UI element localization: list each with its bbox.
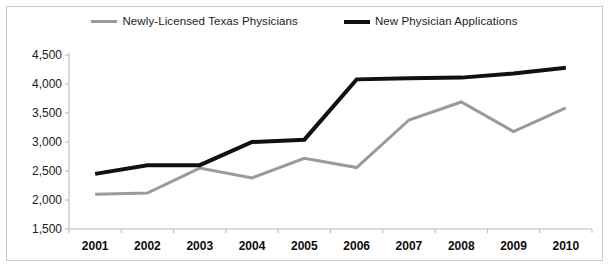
plot-area: 4,5004,0003,5003,0002,5002,0001,500 2001… <box>7 7 602 260</box>
x-axis-tick-label: 2007 <box>396 240 423 252</box>
x-axis-tick-label: 2005 <box>291 240 318 252</box>
x-axis-tick-label: 2006 <box>343 240 370 252</box>
x-axis-tick-label: 2010 <box>552 240 579 252</box>
x-axis-tick-label: 2003 <box>186 240 213 252</box>
x-axis-tick-labels: 2001200220032004200520062007200820092010 <box>7 7 602 260</box>
x-axis-tick-label: 2001 <box>82 240 109 252</box>
x-axis-tick-label: 2004 <box>239 240 266 252</box>
x-axis-tick-label: 2008 <box>448 240 475 252</box>
x-axis-tick-label: 2009 <box>500 240 527 252</box>
x-axis-tick-label: 2002 <box>134 240 161 252</box>
chart-figure: Newly-Licensed Texas Physicians New Phys… <box>0 0 610 266</box>
chart-border: Newly-Licensed Texas Physicians New Phys… <box>6 6 603 261</box>
